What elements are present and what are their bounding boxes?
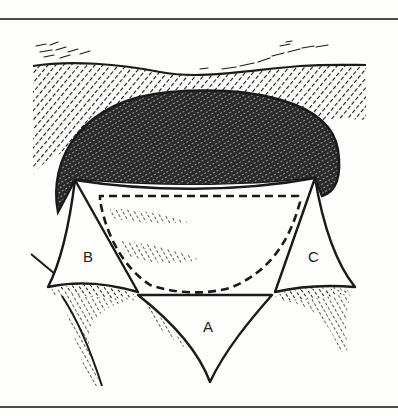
flap-diagram	[0, 0, 398, 416]
label-c: C	[308, 249, 319, 264]
label-b: B	[83, 249, 93, 264]
flap-a	[138, 295, 272, 382]
illustration-figure: B C A	[0, 0, 398, 416]
hair-specks-left	[36, 42, 90, 58]
label-a: A	[203, 319, 213, 334]
cheek-left-shading	[48, 286, 140, 387]
bottom-divider	[0, 406, 398, 408]
